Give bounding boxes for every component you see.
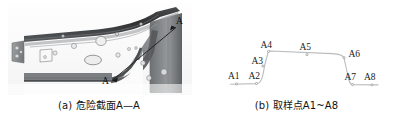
bracket-photograph: A A <box>0 0 198 100</box>
point-marker <box>371 84 373 86</box>
point-marker <box>352 84 354 86</box>
panel-b-caption-text: (b) 取样点A1~A8 <box>255 100 338 111</box>
sampling-points: A1 A2 A3 A4 <box>228 40 376 86</box>
tab-hole-1 <box>15 46 18 49</box>
hole-1 <box>71 43 76 48</box>
point-label: A6 <box>349 49 361 59</box>
section-label-start: A <box>102 76 109 86</box>
sampling-point-a5: A5 <box>300 42 312 56</box>
point-marker <box>343 57 345 59</box>
point-label: A4 <box>261 40 273 50</box>
hole-12 <box>115 32 118 35</box>
sampling-point-a2: A2 <box>249 71 261 85</box>
point-marker <box>235 83 237 85</box>
panel-b-caption: (b) 取样点A1~A8 <box>198 99 395 113</box>
bracket-left-tab <box>12 41 24 63</box>
panel-a-caption-text: (a) 危险截面A—A <box>58 100 140 111</box>
point-label: A1 <box>228 71 240 81</box>
tab-hole-2 <box>15 54 18 57</box>
point-marker <box>255 82 257 84</box>
sampling-point-a6: A6 <box>343 49 360 59</box>
hole-5 <box>44 56 47 59</box>
point-label: A7 <box>345 72 357 82</box>
hole-13 <box>62 35 65 38</box>
hole-6 <box>116 53 120 57</box>
bracket-lower-flange <box>24 73 112 80</box>
panel-a-caption: (a) 危险截面A—A <box>0 99 198 113</box>
section-label-end: A <box>176 16 183 26</box>
photo-bottom-fade <box>8 84 192 95</box>
photo-content <box>8 5 192 95</box>
panel-b-artwork: A1 A2 A3 A4 <box>198 0 395 100</box>
hole-14 <box>140 23 143 26</box>
tab-hole-3 <box>20 51 22 53</box>
sampling-point-a3: A3 <box>252 56 264 67</box>
hole-8 <box>135 47 138 50</box>
sampling-point-a8: A8 <box>364 72 376 86</box>
hole-11 <box>161 69 167 75</box>
point-label: A8 <box>364 72 376 82</box>
point-marker <box>306 54 308 56</box>
point-label: A3 <box>252 56 264 66</box>
hole-9 <box>141 61 146 66</box>
cross-section-profile-diagram: A1 A2 A3 A4 <box>198 0 395 100</box>
panel-a-artwork: A A <box>0 0 198 100</box>
figure-root: A A (a) 危险截面A—A A1 <box>0 0 395 128</box>
sampling-point-a1: A1 <box>228 71 240 85</box>
hole-2 <box>96 36 106 45</box>
figure-panel-a: A A (a) 危险截面A—A <box>0 0 198 128</box>
hole-10 <box>147 76 152 81</box>
figure-panel-b: A1 A2 A3 A4 <box>198 0 395 128</box>
point-label: A2 <box>249 71 261 81</box>
hole-3-slot <box>85 55 102 65</box>
hole-4 <box>53 51 57 55</box>
point-marker <box>268 50 270 52</box>
hole-7 <box>127 47 130 50</box>
point-label: A5 <box>300 42 312 52</box>
